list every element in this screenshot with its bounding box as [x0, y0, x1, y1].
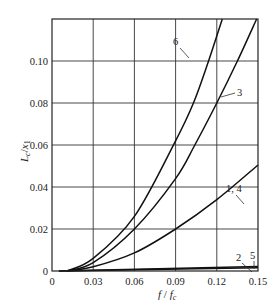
curve-label: 1, 4: [226, 183, 243, 194]
x-tick-label: 0.06: [125, 276, 143, 287]
x-tick-label: 0.03: [84, 276, 102, 287]
y-tick-label: 0.06: [30, 140, 48, 151]
x-tick-label: 0: [49, 276, 54, 287]
curve-1-4: [67, 165, 258, 271]
curve-label: 6: [173, 36, 178, 47]
grid: [52, 19, 258, 271]
y-tick-label: 0.08: [30, 98, 48, 109]
curve-label: 2: [236, 252, 241, 263]
curve-label: 5: [250, 250, 255, 261]
x-tick-label: 0.09: [166, 276, 184, 287]
x-axis-ticks: 00.030.060.090.120.15: [49, 276, 267, 287]
line-chart: 00.030.060.090.120.15 00.020.040.060.080…: [0, 0, 277, 308]
x-axis-label: f / fc: [158, 288, 177, 302]
leader-line: [180, 48, 189, 58]
leader-line: [221, 93, 235, 97]
y-tick-label: 0: [43, 266, 48, 277]
y-tick-label: 0.04: [30, 182, 49, 193]
y-axis-ticks: 00.020.040.060.080.10: [30, 56, 49, 277]
y-tick-label: 0.02: [30, 224, 48, 235]
x-tick-label: 0.15: [249, 276, 267, 287]
curve-label: 3: [237, 87, 242, 98]
y-tick-label: 0.10: [30, 56, 48, 67]
y-axis-label: Lc/x1: [18, 140, 32, 163]
x-tick-label: 0.12: [208, 276, 226, 287]
leader-line: [236, 195, 244, 204]
